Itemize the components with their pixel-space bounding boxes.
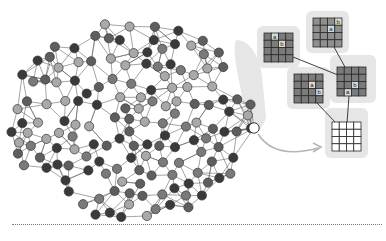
graph-node (166, 60, 175, 69)
graph-node (142, 211, 151, 220)
graph-node (125, 189, 134, 198)
graph-node (125, 22, 134, 31)
graph-node (184, 203, 193, 212)
graph-node (70, 145, 79, 154)
graph-node (106, 54, 115, 63)
graph-node (176, 66, 185, 75)
graph-node (160, 131, 169, 140)
graph-node (136, 179, 145, 188)
graph-node (168, 83, 177, 92)
graph-node (54, 63, 63, 72)
graph-node (170, 143, 179, 152)
graph-node (70, 76, 79, 85)
graph-node (74, 58, 83, 67)
tile-right: ba (337, 67, 366, 96)
graph-node (54, 128, 63, 137)
graph-node (138, 191, 147, 200)
graph-node (208, 82, 217, 91)
graph-node (183, 82, 192, 91)
graph-node (170, 184, 179, 193)
graph-node (125, 114, 134, 123)
graph-node (158, 190, 167, 199)
graph-node (158, 158, 167, 167)
graph-node (203, 178, 212, 187)
graph-node (143, 48, 152, 57)
graph-node (135, 166, 144, 175)
graph-node (110, 186, 119, 195)
graph-node (52, 143, 61, 152)
graph-node (190, 99, 199, 108)
graph-node (60, 116, 69, 125)
graph-node (168, 170, 177, 179)
graph-node (246, 100, 255, 109)
graph-node (108, 74, 117, 83)
graph-node (110, 113, 119, 122)
graph-node (170, 40, 179, 49)
graph-node (219, 62, 228, 71)
graph-node (29, 77, 38, 86)
graph-node (64, 161, 73, 170)
graph-node (85, 122, 94, 131)
diagram-canvas: baababba (0, 0, 386, 241)
graph-node (42, 163, 51, 172)
graph-node (151, 205, 160, 214)
graph-node (158, 119, 167, 128)
graph-node (118, 177, 127, 186)
graph-node (125, 127, 134, 136)
graph-node (215, 174, 224, 183)
graph-node (147, 86, 156, 95)
graph-node (243, 111, 252, 120)
graph-node (208, 124, 217, 133)
graph-node (13, 149, 22, 158)
graph-node (61, 96, 70, 105)
graph-node (199, 50, 208, 59)
graph-node (226, 169, 235, 178)
graph-node (26, 141, 35, 150)
graph-node (127, 79, 136, 88)
graph-node (100, 20, 109, 29)
graph-node (181, 191, 190, 200)
graph-node (18, 119, 27, 128)
graph-node (225, 107, 234, 116)
graph-node (64, 187, 73, 196)
graph-node (170, 109, 179, 118)
tile-output (332, 122, 361, 151)
graph-node (105, 208, 114, 217)
graph-node (41, 75, 50, 84)
graph-node (204, 100, 213, 109)
graph-node (101, 169, 110, 178)
graph-node (95, 157, 104, 166)
network-nodes (7, 20, 259, 222)
graph-node (94, 82, 103, 91)
graph-node (61, 176, 70, 185)
graph-node (13, 105, 22, 114)
graph-node (115, 35, 124, 44)
graph-node (229, 153, 238, 162)
graph-node (68, 132, 77, 141)
graph-node (197, 191, 206, 200)
graph-node (71, 120, 80, 129)
graph-node (143, 140, 152, 149)
tile-left: ab (264, 33, 293, 62)
graph-node (102, 141, 111, 150)
graph-node (91, 210, 100, 219)
graph-node (89, 140, 98, 149)
graph-node (117, 212, 126, 221)
graph-node (42, 134, 51, 143)
highlighted-node (249, 123, 259, 133)
graph-node (220, 127, 229, 136)
graph-node (42, 100, 51, 109)
graph-node (147, 171, 156, 180)
graph-node (33, 118, 42, 127)
graph-node (53, 160, 62, 169)
graph-node (82, 89, 91, 98)
graph-node (112, 164, 121, 173)
graph-node (207, 157, 216, 166)
graph-node (153, 62, 162, 71)
graph-node (172, 97, 181, 106)
graph-node (124, 200, 133, 209)
graph-node (19, 161, 28, 170)
graph-node (95, 194, 104, 203)
graph-node (127, 153, 136, 162)
graph-node (104, 34, 113, 43)
